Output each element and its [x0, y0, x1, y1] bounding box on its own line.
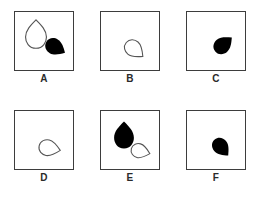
panel-a-label: A: [14, 73, 74, 85]
teardrop-outline-up-left-icon: [121, 36, 148, 62]
shape-comparison-figure: A B C D: [0, 0, 261, 202]
panel-b: B: [100, 11, 160, 71]
panel-c-shapes: [186, 11, 246, 71]
panel-d-label: D: [14, 172, 74, 184]
panel-c: C: [186, 11, 246, 71]
teardrop-filled-down-left-icon: [210, 32, 237, 58]
teardrop-outline-down-icon: [26, 20, 47, 49]
panel-a: A: [14, 11, 74, 71]
panel-c-label: C: [186, 73, 246, 85]
panel-e: E: [100, 110, 160, 170]
panel-d-shapes: [14, 110, 74, 170]
panel-a-shapes: [14, 11, 74, 71]
panel-b-shapes: [100, 11, 160, 71]
panel-f-label: F: [186, 172, 246, 184]
panel-b-label: B: [100, 73, 160, 85]
teardrop-outline-left-icon: [130, 142, 152, 161]
panel-d: D: [14, 110, 74, 170]
panel-e-shapes: [100, 110, 160, 170]
teardrop-filled-up-left-icon: [209, 135, 234, 161]
teardrop-outline-left-icon: [37, 138, 61, 158]
panel-e-label: E: [100, 172, 160, 184]
panel-f: F: [186, 110, 246, 170]
teardrop-filled-down-icon: [114, 122, 134, 149]
panel-f-shapes: [186, 110, 246, 170]
